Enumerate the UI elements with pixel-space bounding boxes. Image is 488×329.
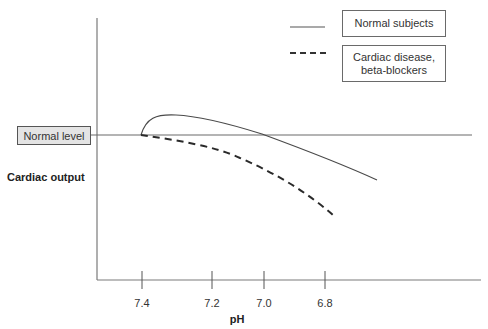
chart: 7.4 7.2 7.0 6.8 pH Normal subjects Cardi…	[0, 0, 488, 329]
legend-label-line2: beta-blockers	[361, 64, 427, 77]
normal-level-label: Normal level	[17, 126, 91, 145]
x-axis-label: pH	[230, 313, 245, 325]
x-tick-label: 7.2	[204, 297, 219, 309]
x-tick-label: 7.0	[256, 297, 271, 309]
legend-label: Normal subjects	[355, 17, 434, 30]
series-normal-subjects	[141, 115, 377, 180]
series-cardiac-disease	[141, 135, 333, 215]
x-tick-label: 7.4	[134, 297, 149, 309]
x-tick-label: 6.8	[317, 297, 332, 309]
normal-level-text: Normal level	[23, 130, 84, 142]
legend-item-normal-subjects: Normal subjects	[342, 10, 446, 37]
legend-label-line1: Cardiac disease,	[353, 51, 435, 64]
legend-item-cardiac-disease: Cardiac disease, beta-blockers	[342, 45, 446, 82]
y-axis-label: Cardiac output	[7, 171, 85, 183]
